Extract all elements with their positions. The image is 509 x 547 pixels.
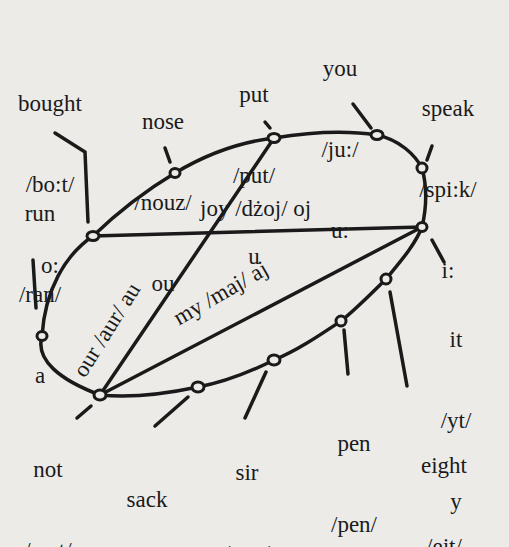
node-pen bbox=[336, 316, 346, 326]
symbol: u: bbox=[302, 217, 378, 244]
transcription: /pen/ bbox=[316, 511, 392, 538]
word: sir bbox=[196, 459, 298, 486]
word: eight bbox=[400, 452, 488, 479]
transcription: /na:t/ bbox=[4, 537, 92, 547]
label-not: not /na:t/ a: bbox=[4, 402, 92, 547]
node-sack bbox=[192, 382, 204, 392]
transcription: /ju:/ bbox=[302, 136, 378, 163]
transcription: /ejt/ bbox=[400, 533, 488, 547]
word: not bbox=[4, 456, 92, 483]
transcription: /put/ bbox=[216, 162, 292, 189]
word: put bbox=[216, 81, 292, 108]
word: speak bbox=[392, 95, 504, 122]
transcription: /ran/ bbox=[0, 281, 80, 308]
node-eight bbox=[381, 274, 391, 284]
label-speak: speak /spi:k/ i: bbox=[392, 41, 504, 311]
word: pen bbox=[316, 430, 392, 457]
transcription: /nouz/ bbox=[116, 189, 210, 216]
word: nose bbox=[116, 108, 210, 135]
word: it bbox=[420, 326, 492, 353]
label-sack: sack /saek/ ae bbox=[102, 432, 192, 547]
word: you bbox=[302, 55, 378, 82]
label-pen: pen /pen/ e bbox=[316, 376, 392, 547]
label-sir: sir /se:r/ /soer/ e: =oe bbox=[196, 405, 298, 547]
label-run: run /ran/ a bbox=[0, 146, 80, 416]
label-joy-diphthong: joy /dżoj/ oj bbox=[200, 196, 311, 222]
node-sir bbox=[268, 355, 280, 365]
transcription: /spi:k/ bbox=[392, 176, 504, 203]
leader-sack bbox=[155, 397, 188, 426]
word: sack bbox=[102, 486, 192, 513]
label-put: put /put/ u bbox=[216, 27, 292, 297]
label-you: you /ju:/ u: bbox=[302, 1, 378, 271]
word: run bbox=[0, 200, 80, 227]
word: bought bbox=[4, 90, 96, 117]
transcription: /se:r/ bbox=[196, 540, 298, 547]
label-eight: eight /ejt/ ej bbox=[400, 398, 488, 547]
leader-pen bbox=[344, 330, 348, 374]
node-not bbox=[94, 390, 106, 400]
